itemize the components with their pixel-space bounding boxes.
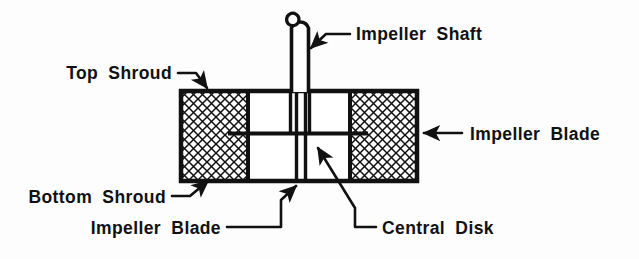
label-impeller-blade-right: Impeller Blade [470, 124, 600, 144]
label-bottom-shroud: Bottom Shroud [28, 187, 166, 207]
right-hatched-blade-block [351, 93, 415, 179]
impeller-shaft-group [287, 13, 309, 92]
impeller-cross-section-svg: Impeller Shaft Top Shroud Impeller Blade… [0, 0, 639, 259]
label-impeller-shaft: Impeller Shaft [356, 24, 482, 44]
shaft-top-cap [287, 13, 299, 25]
label-top-shroud: Top Shroud [66, 63, 172, 83]
impeller-diagram: Impeller Shaft Top Shroud Impeller Blade… [0, 0, 639, 259]
label-impeller-blade-bottom: Impeller Blade [91, 218, 221, 238]
left-hatched-blade-block [183, 93, 247, 179]
impeller-shaft-tube [292, 22, 309, 92]
label-central-disk: Central Disk [382, 218, 494, 238]
impeller-body-group [181, 91, 417, 181]
